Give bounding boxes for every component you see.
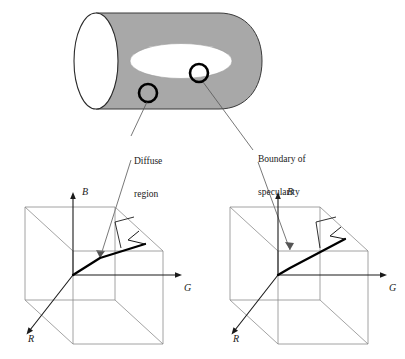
r-axis-line	[235, 275, 278, 330]
cube-back-face	[230, 207, 320, 300]
cylinder-group	[74, 13, 262, 109]
g-axis-arrow	[380, 272, 387, 278]
signal-tail-line	[316, 217, 336, 248]
b-axis-arrow	[70, 192, 76, 199]
cube-diffuse-r-axis-label: R	[28, 333, 34, 345]
cube-specular-g-axis-label: G	[389, 282, 396, 294]
specular-highlight	[130, 44, 232, 79]
cube-diffuse-b-axis-label: B	[82, 186, 88, 198]
cube-edge-br	[115, 300, 163, 344]
cube-front-face	[73, 251, 163, 344]
cube-specular-b-axis-label: B	[287, 186, 293, 198]
diffuse-region-callout: Diffuse region	[134, 134, 162, 210]
specular-spur	[330, 227, 345, 239]
cube-specular-r-axis-label: R	[233, 333, 239, 345]
r-axis-line	[30, 275, 73, 330]
diffuse-region-callout-line2: region	[134, 189, 162, 200]
specularity-boundary-callout-line2: specularity	[258, 187, 306, 198]
cube-front-face	[278, 251, 368, 344]
figure-canvas	[0, 0, 405, 359]
g-axis-arrow	[175, 272, 182, 278]
cube-edge-tr	[115, 207, 163, 251]
specularity-boundary-callout: Boundary of specularity	[258, 132, 306, 208]
cube-edge-tl	[230, 207, 278, 251]
cylinder-end-cap	[74, 13, 118, 109]
rgb-cube-diffuse	[25, 192, 182, 344]
diffuse-pointer-line	[100, 160, 131, 258]
specular-spur	[128, 231, 145, 244]
specularity-pointer-arrow	[285, 242, 294, 250]
cube-edge-tl	[25, 207, 73, 251]
color-signal-vector	[73, 244, 145, 275]
specularity-boundary-callout-line1: Boundary of	[258, 154, 306, 165]
cube-edge-tr	[320, 207, 368, 251]
cube-diffuse-g-axis-label: G	[184, 282, 191, 294]
diffuse-region-callout-line1: Diffuse	[134, 156, 162, 167]
cube-edge-br	[320, 300, 368, 344]
rgb-cube-specular	[230, 192, 387, 344]
